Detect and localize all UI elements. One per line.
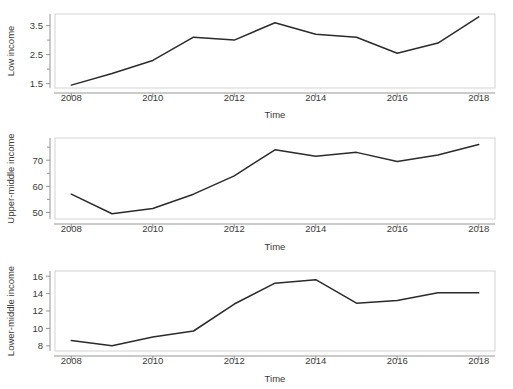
chart-svg: 200820102012201420162018810121416Lower-m…	[0, 257, 513, 389]
y-tick-label: 1.5	[30, 78, 43, 89]
multi-panel-line-chart-figure: 2008201020122014201620181.52.53.5Low inc…	[0, 0, 513, 389]
y-tick-label: 50	[32, 207, 43, 218]
x-tick-label: 2014	[305, 355, 326, 366]
y-tick-label: 8	[38, 340, 43, 351]
y-tick-label: 12	[32, 305, 43, 316]
y-tick-label: 10	[32, 323, 43, 334]
chart-svg: 200820102012201420162018506070Upper-midd…	[0, 126, 513, 257]
x-tick-label: 2016	[387, 92, 408, 103]
x-tick-label: 2012	[224, 92, 245, 103]
x-tick-label: 2016	[387, 223, 408, 234]
x-tick-label: 2018	[468, 355, 489, 366]
y-tick-label: 2.5	[30, 49, 43, 60]
x-tick-label: 2014	[305, 92, 326, 103]
x-tick-label: 2010	[142, 92, 163, 103]
y-axis-title: Lower-middle income	[5, 266, 16, 356]
x-axis-title: Time	[265, 373, 286, 384]
x-tick-label: 2012	[224, 355, 245, 366]
x-tick-label: 2014	[305, 223, 326, 234]
y-axis-title: Low income	[5, 26, 16, 77]
data-series-line	[71, 17, 478, 85]
x-tick-label: 2010	[142, 223, 163, 234]
data-series-line	[71, 280, 478, 346]
x-tick-label: 2008	[61, 355, 82, 366]
chart-panel-lower-middle-income: 200820102012201420162018810121416Lower-m…	[0, 257, 513, 389]
y-tick-label: 14	[32, 288, 43, 299]
x-tick-label: 2018	[468, 223, 489, 234]
x-axis-title: Time	[265, 241, 286, 252]
plot-frame	[55, 14, 495, 88]
x-tick-label: 2010	[142, 355, 163, 366]
x-tick-label: 2012	[224, 223, 245, 234]
chart-svg: 2008201020122014201620181.52.53.5Low inc…	[0, 0, 513, 126]
y-tick-label: 3.5	[30, 20, 43, 31]
y-tick-label: 70	[32, 155, 43, 166]
x-axis-title: Time	[265, 109, 286, 120]
x-tick-label: 2008	[61, 92, 82, 103]
y-tick-label: 60	[32, 181, 43, 192]
y-tick-label: 16	[32, 271, 43, 282]
x-tick-label: 2008	[61, 223, 82, 234]
x-tick-label: 2018	[468, 92, 489, 103]
y-axis-title: Upper-middle income	[5, 133, 16, 223]
chart-panel-upper-middle-income: 200820102012201420162018506070Upper-midd…	[0, 126, 513, 257]
data-series-line	[71, 145, 478, 214]
x-tick-label: 2016	[387, 355, 408, 366]
chart-panel-low-income: 2008201020122014201620181.52.53.5Low inc…	[0, 0, 513, 126]
